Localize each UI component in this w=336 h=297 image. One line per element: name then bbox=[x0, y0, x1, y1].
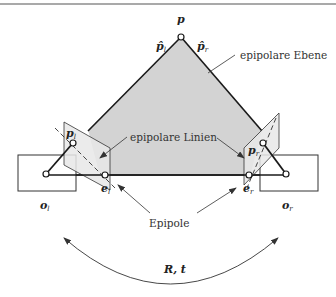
arrow-epipole-left bbox=[118, 185, 150, 213]
point-e-r bbox=[246, 172, 252, 178]
label-p: p bbox=[177, 13, 185, 26]
label-o-r: or bbox=[282, 199, 293, 213]
label-e-r: er bbox=[243, 182, 254, 196]
pointer-epipolar-plane bbox=[208, 55, 235, 73]
label-epipolar-lines: epipolare Linien bbox=[130, 131, 217, 143]
epipolar-geometry-diagram: p p̂l p̂r pl pr el er ol or epipolare Eb… bbox=[0, 0, 336, 297]
point-p-r bbox=[260, 140, 266, 146]
label-p-hat-l: p̂l bbox=[156, 40, 166, 54]
transform-arc bbox=[64, 238, 278, 284]
point-p bbox=[178, 34, 184, 40]
point-o-l bbox=[43, 171, 49, 177]
epipolar-plane bbox=[88, 37, 262, 176]
label-transform: R, t bbox=[163, 263, 186, 276]
point-e-l bbox=[102, 172, 108, 178]
label-o-l: ol bbox=[40, 199, 50, 213]
label-epipolar-plane: epipolare Ebene bbox=[240, 49, 327, 61]
label-p-hat-r: p̂r bbox=[197, 40, 209, 54]
point-o-r bbox=[283, 171, 289, 177]
label-epipoles: Epipole bbox=[149, 217, 189, 229]
arrow-epipole-right bbox=[197, 188, 236, 213]
